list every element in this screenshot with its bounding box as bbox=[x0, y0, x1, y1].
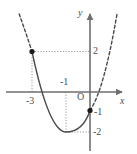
x-tick-label-minus3: -3 bbox=[26, 96, 34, 106]
y-axis-label: y bbox=[78, 8, 82, 18]
y-tick-label-minus1: -1 bbox=[94, 107, 102, 117]
parabola-figure: x y O -3 -1 2 -1 -2 bbox=[0, 0, 137, 154]
marked-point-0-minus1 bbox=[87, 108, 92, 113]
y-tick-label-minus2: -2 bbox=[93, 127, 101, 137]
parabola-dashed-right bbox=[90, 14, 117, 111]
y-tick-label-2: 2 bbox=[93, 46, 98, 56]
origin-label: O bbox=[77, 92, 84, 102]
x-axis-label: x bbox=[120, 96, 124, 106]
plot-canvas bbox=[0, 0, 137, 154]
marked-point-minus3-2 bbox=[29, 49, 34, 54]
parabola-dashed-left bbox=[19, 14, 32, 52]
x-tick-label-minus1: -1 bbox=[60, 77, 68, 87]
